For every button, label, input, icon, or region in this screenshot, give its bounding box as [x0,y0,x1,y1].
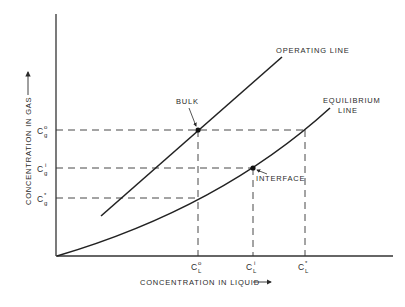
svg-text:C: C [191,262,197,272]
svg-text:L: L [198,268,202,274]
svg-text:i: i [45,162,46,168]
y-tick-cg0: C o g [37,124,48,138]
y-tick-cgi: C i g [37,162,47,176]
svg-text:g: g [44,132,47,138]
svg-text:C: C [37,194,43,204]
y-axis-title: CONCENTRATION IN GAS [24,72,33,205]
svg-text:C: C [246,262,252,272]
bulk-pointer-arrow [189,108,196,126]
svg-text:L: L [305,268,309,274]
y-tick-cgstar: C * g [37,192,47,206]
svg-text:o: o [198,260,202,266]
bulk-label: BULK [176,97,199,106]
x-tick-clstar: C * L [298,260,309,274]
svg-text:*: * [305,260,308,266]
svg-text:C: C [37,164,43,174]
operating-line [101,57,282,216]
svg-text:C: C [298,262,304,272]
svg-text:*: * [44,192,47,198]
y-axis-label: CONCENTRATION IN GAS [24,97,33,205]
svg-text:i: i [254,260,255,266]
svg-text:g: g [44,200,47,206]
svg-text:g: g [44,170,47,176]
concentration-diagram: OPERATING LINE EQUILIBRIUM LINE BULK INT… [0,0,405,307]
svg-text:C: C [37,126,43,136]
interface-point [250,165,255,170]
operating-line-label: OPERATING LINE [276,46,350,55]
interface-label: INTERFACE [256,174,305,183]
equilibrium-line-label-2: LINE [338,106,358,115]
x-tick-cli: C i L [246,260,257,274]
x-axis-label: CONCENTRATION IN LIQUID [140,278,260,287]
svg-text:o: o [44,124,48,130]
x-tick-cl0: C o L [191,260,202,274]
dashed-guides [56,130,305,256]
svg-text:L: L [253,268,257,274]
equilibrium-line-label-1: EQUILIBRIUM [323,96,381,105]
bulk-point [195,127,200,132]
